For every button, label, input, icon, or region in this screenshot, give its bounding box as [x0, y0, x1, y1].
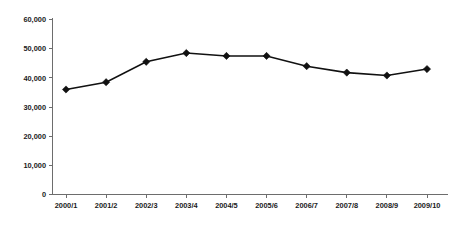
- line-chart: 010,00020,00030,00040,00050,00060,000 20…: [0, 0, 462, 227]
- y-tick-label: 40,000: [23, 74, 46, 83]
- x-tick-label: 2008/9: [376, 201, 399, 210]
- x-tick-label: 2000/1: [55, 201, 78, 210]
- data-point-marker: [103, 79, 110, 86]
- chart-canvas: 010,00020,00030,00040,00050,00060,000 20…: [0, 0, 462, 227]
- x-tick-label: 2002/3: [135, 201, 158, 210]
- data-point-marker: [343, 69, 350, 76]
- y-tick-label: 0: [42, 190, 46, 199]
- x-tick-label: 2001/2: [95, 201, 118, 210]
- x-tick-label: 2006/7: [295, 201, 318, 210]
- data-point-marker: [223, 52, 230, 59]
- data-point-marker: [62, 86, 69, 93]
- x-tick-label: 2005/6: [255, 201, 278, 210]
- y-tick-label: 20,000: [23, 132, 46, 141]
- data-point-marker: [263, 52, 270, 59]
- y-axis: 010,00020,00030,00040,00050,00060,000: [23, 15, 52, 199]
- data-point-marker: [383, 72, 390, 79]
- plot-area: [62, 49, 430, 93]
- data-point-marker: [143, 58, 150, 65]
- x-axis: 2000/12001/22002/32003/42004/52005/62006…: [53, 195, 448, 210]
- y-tick-label: 30,000: [23, 103, 46, 112]
- data-point-marker: [183, 49, 190, 56]
- x-tick-label: 2007/8: [335, 201, 358, 210]
- x-tick-label: 2003/4: [175, 201, 198, 210]
- data-point-marker: [303, 63, 310, 70]
- data-point-marker: [423, 65, 430, 72]
- x-tick-label: 2004/5: [215, 201, 238, 210]
- y-tick-label: 60,000: [23, 15, 46, 24]
- y-tick-label: 50,000: [23, 44, 46, 53]
- x-tick-label: 2009/10: [414, 201, 441, 210]
- y-tick-label: 10,000: [23, 161, 46, 170]
- series-line-1: [66, 53, 427, 89]
